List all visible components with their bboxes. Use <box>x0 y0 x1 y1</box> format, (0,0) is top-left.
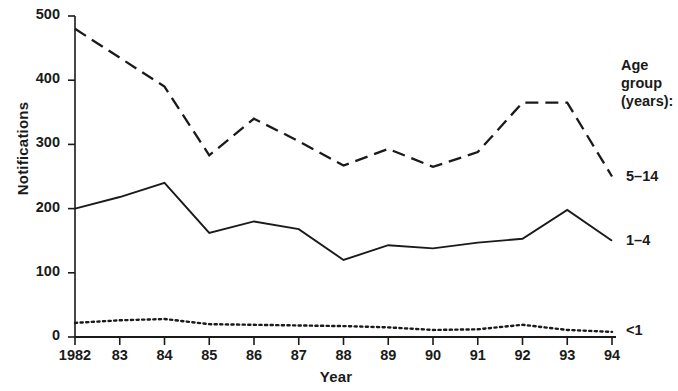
legend-label-1: <1 <box>626 322 643 338</box>
series-line-1-4 <box>75 183 612 260</box>
x-axis-title: Year <box>276 368 396 385</box>
chart-plot-area <box>0 0 678 391</box>
y-axis-tick-label: 400 <box>12 70 60 86</box>
x-axis-ticks <box>75 337 612 345</box>
chart-figure: Notifications Year 0100200300400500 1982… <box>0 0 678 391</box>
legend-title: Age group (years): <box>621 56 673 110</box>
legend-title-line-3: (years): <box>621 92 673 110</box>
axis-lines <box>75 16 616 337</box>
legend-title-line-2: group <box>621 74 673 92</box>
series-line-1 <box>75 319 612 332</box>
y-axis-tick-label: 200 <box>12 199 60 215</box>
legend-title-line-1: Age <box>621 56 673 74</box>
y-axis-tick-label: 300 <box>12 134 60 150</box>
y-axis-tick-label: 100 <box>12 263 60 279</box>
series-paths <box>75 29 612 332</box>
series-line-5-14 <box>75 29 612 177</box>
x-axis-tick-label: 94 <box>585 347 639 363</box>
legend-label-1-4: 1–4 <box>626 232 650 248</box>
y-axis-tick-label: 500 <box>12 6 60 22</box>
legend-label-5-14: 5–14 <box>626 168 658 184</box>
y-axis-ticks <box>68 16 75 337</box>
y-axis-tick-label: 0 <box>12 327 60 343</box>
